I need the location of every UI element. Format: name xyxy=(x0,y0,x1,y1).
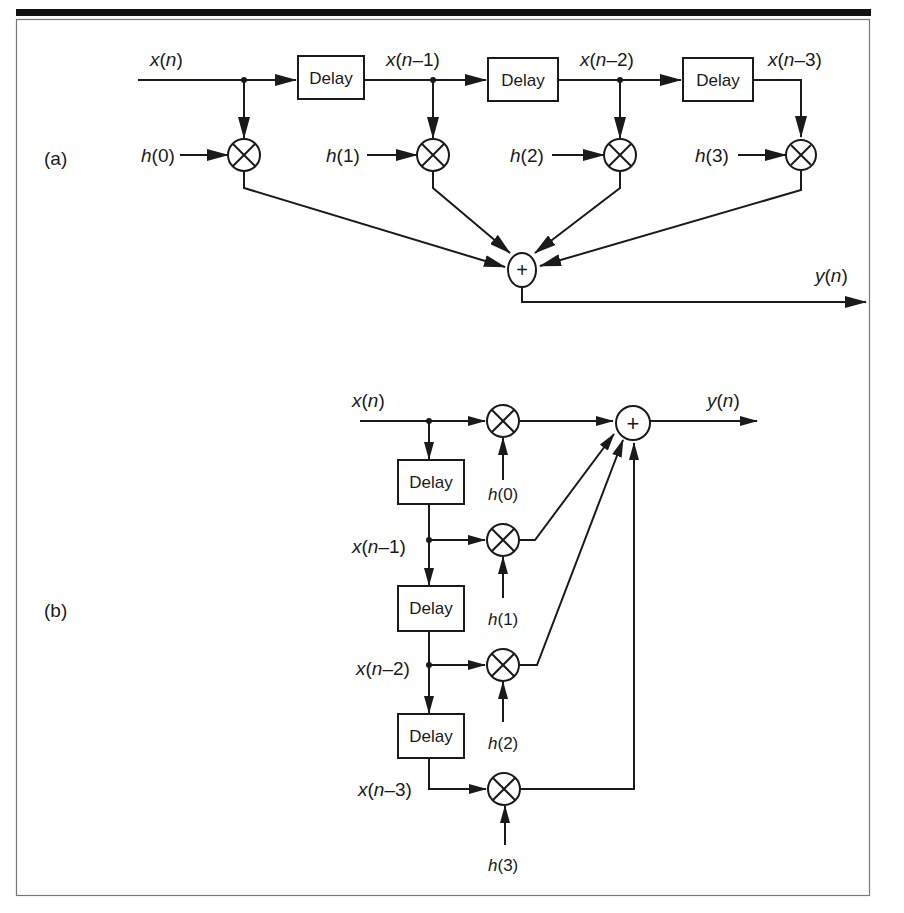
output-line xyxy=(522,287,866,302)
coef-h1: h(1) xyxy=(488,610,518,629)
delay-block-3-label: Delay xyxy=(696,71,740,90)
panel-b: (b) x(n) Delay x(n–1) Delay x(n–2) Delay… xyxy=(44,390,757,875)
adder-b: + xyxy=(616,406,650,440)
multiplier-b-2 xyxy=(487,649,519,681)
panel-b-label: (b) xyxy=(44,600,67,621)
multiplier-b-3 xyxy=(488,773,520,805)
label-x-n-2: x(n–2) xyxy=(579,49,634,70)
svg-text:+: + xyxy=(627,411,640,436)
coef-h0: h(0) xyxy=(141,145,175,166)
label-x-n-1: x(n–1) xyxy=(351,536,406,557)
delay-block-2-label: Delay xyxy=(501,71,545,90)
panel-a-label: (a) xyxy=(44,148,67,169)
label-x-n: x(n) xyxy=(149,49,183,70)
fir-filter-figure: (a) x(n) Delay x(n–1) Delay x(n–2) Delay… xyxy=(0,0,904,913)
label-y-n: y(n) xyxy=(813,265,848,286)
multiplier-a-3 xyxy=(786,140,816,170)
label-x-n-3: x(n–3) xyxy=(357,779,412,800)
label-x-n-2: x(n–2) xyxy=(355,658,410,679)
panel-a: (a) x(n) Delay x(n–1) Delay x(n–2) Delay… xyxy=(44,49,866,302)
svg-text:Delay: Delay xyxy=(409,727,453,746)
multiplier-a-0 xyxy=(228,139,260,171)
coef-h2: h(2) xyxy=(488,734,518,753)
svg-text:Delay: Delay xyxy=(409,473,453,492)
coef-h3: h(3) xyxy=(695,145,729,166)
delay-block-1-label: Delay xyxy=(309,69,353,88)
top-rule xyxy=(16,9,871,16)
coef-h3: h(3) xyxy=(488,856,518,875)
svg-text:+: + xyxy=(516,259,528,281)
multiplier-a-2 xyxy=(604,139,636,171)
coef-h0: h(0) xyxy=(488,485,518,504)
multiplier-b-0 xyxy=(487,405,519,437)
label-x-n-3: x(n–3) xyxy=(767,49,822,70)
adder-a: + xyxy=(508,253,536,287)
label-y-n: y(n) xyxy=(705,390,740,411)
coef-h2: h(2) xyxy=(510,145,544,166)
multiplier-a-1 xyxy=(417,139,449,171)
svg-text:Delay: Delay xyxy=(409,599,453,618)
coef-h1: h(1) xyxy=(326,145,360,166)
multiplier-b-1 xyxy=(487,524,519,556)
label-x-n: x(n) xyxy=(351,390,385,411)
label-x-n-1: x(n–1) xyxy=(385,49,440,70)
